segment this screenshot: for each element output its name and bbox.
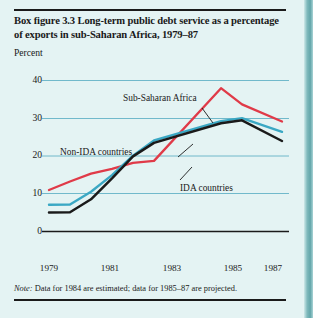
page-edge-border xyxy=(304,0,313,318)
figure-note: Note: Data for 1984 are estimated; data … xyxy=(14,284,294,293)
figure-container: Box figure 3.3 Long-term public debt ser… xyxy=(0,0,313,318)
chart-plot-area xyxy=(0,0,313,318)
leader-line-sub-saharan-africa xyxy=(202,108,213,123)
series-annotation-sub-saharan-africa: Sub-Saharan Africa xyxy=(123,93,197,103)
note-label: Note: xyxy=(14,284,33,293)
note-text: Data for 1984 are estimated; data for 19… xyxy=(33,284,237,293)
leader-line-ida-countries xyxy=(180,167,192,180)
series-line-ida-countries xyxy=(49,118,282,205)
bottom-rule xyxy=(14,299,286,301)
series-annotation-non-ida-countries: Non-IDA countries xyxy=(60,147,132,157)
leader-line-non-ida-countries xyxy=(178,144,193,157)
series-annotation-ida-countries: IDA countries xyxy=(180,183,233,193)
series-line-non-ida-countries xyxy=(49,120,282,212)
